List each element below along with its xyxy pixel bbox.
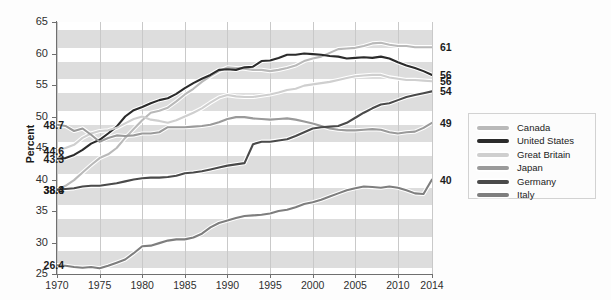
x-tick [57,274,58,278]
y-tick [52,54,56,55]
end-value-label: 49 [440,118,452,129]
x-tick-label: 1985 [165,279,205,291]
x-tick-label: 2005 [335,279,375,291]
chart-legend[interactable]: CanadaUnited StatesGreat BritainJapanGer… [468,113,596,199]
x-tick [270,274,271,278]
chart-root: Percent 253035404550556065 1970197519801… [0,0,611,300]
x-tick [100,274,101,278]
y-tick-label: 55 [4,79,48,90]
y-tick-label: 35 [4,205,48,216]
legend-swatch [477,139,509,143]
y-tick-label: 65 [4,16,48,27]
legend-label: Great Britain [517,150,570,160]
start-value-label: 26.4 [36,260,64,271]
x-tick [142,274,143,278]
y-tick [52,243,56,244]
legend-swatch [477,153,509,157]
x-axis-line [56,274,433,275]
legend-item-united-states[interactable]: United States [477,135,595,148]
series-halo [57,180,432,269]
series-line-great-britain [57,75,432,151]
x-tick [432,274,433,278]
y-tick [52,211,56,212]
legend-item-italy[interactable]: Italy [477,189,595,202]
legend-label: United States [517,136,574,146]
y-tick [52,180,56,181]
legend-swatch [477,180,509,184]
x-tick-label: 1990 [207,279,247,291]
start-value-label: 38.3 [36,185,64,196]
legend-label: Japan [517,163,543,173]
x-tick-label: 2000 [293,279,333,291]
y-tick [52,117,56,118]
series-line-germany [57,91,432,189]
series-line-italy [57,180,432,269]
series-halo [57,75,432,151]
x-tick [398,274,399,278]
y-tick-label: 30 [4,237,48,248]
x-tick-label: 1980 [122,279,162,291]
y-tick [52,274,56,275]
x-tick-label: 1970 [37,279,77,291]
x-tick-label: 1995 [250,279,290,291]
y-tick [52,85,56,86]
legend-swatch [477,193,509,197]
legend-label: Canada [517,123,550,133]
start-value-label: 43.3 [36,154,64,165]
x-tick-label: 2014 [412,279,452,291]
legend-item-canada[interactable]: Canada [477,121,595,134]
end-value-label: 61 [440,42,452,53]
x-tick [227,274,228,278]
legend-item-japan[interactable]: Japan [477,162,595,175]
start-value-label: 48.7 [36,120,64,131]
plot-area [57,22,432,274]
gridline [432,22,433,274]
y-tick [52,22,56,23]
y-tick-label: 40 [4,174,48,185]
series-lines [57,22,432,274]
legend-label: Germany [517,177,556,187]
x-tick [185,274,186,278]
end-value-label: 40 [440,175,452,186]
legend-item-germany[interactable]: Germany [477,175,595,188]
x-tick [355,274,356,278]
legend-label: Italy [517,190,534,200]
legend-item-great-britain[interactable]: Great Britain [477,148,595,161]
x-tick-label: 1975 [80,279,120,291]
x-tick [313,274,314,278]
legend-swatch [477,166,509,170]
y-tick-label: 60 [4,48,48,59]
end-value-label: 54 [440,86,452,97]
legend-swatch [477,126,509,130]
